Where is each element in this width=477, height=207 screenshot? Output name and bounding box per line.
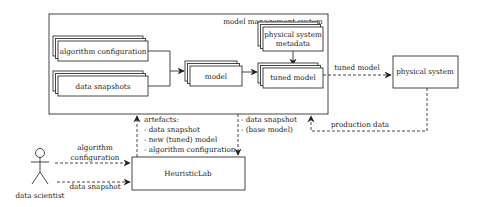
- to-heuristiclab-item: - data snapshot: [241, 115, 297, 124]
- artefacts-item: - algorithm configuration: [144, 145, 236, 154]
- physical-system-metadata-line2: metadata: [276, 39, 311, 48]
- scientist-data-label: data snapshot: [69, 182, 120, 191]
- data-snapshots-label: data snapshots: [76, 82, 131, 91]
- tuned-model-out-label: tuned model: [334, 63, 380, 72]
- heuristiclab-label: HeuristicLab: [164, 169, 212, 178]
- model-label: model: [205, 72, 228, 81]
- physical-system-metadata-stack: physical system metadata: [258, 22, 323, 51]
- artefacts-item: - new (tuned) model: [144, 135, 218, 144]
- algorithm-configuration-label: algorithm configuration: [60, 47, 147, 56]
- algorithm-configuration-stack: algorithm configuration: [53, 36, 148, 61]
- data-scientist-actor: data scientist: [15, 149, 64, 201]
- physical-system-metadata-line1: physical system: [264, 30, 322, 39]
- artefacts-title: artefacts:: [144, 115, 179, 124]
- artefacts-item: - data snapshot: [144, 125, 200, 134]
- data-snapshots-stack: data snapshots: [53, 71, 148, 96]
- production-data-label: production data: [331, 120, 390, 129]
- scientist-algo-label-2: configuration: [71, 153, 120, 162]
- model-stack: model: [185, 61, 242, 86]
- person-icon: [36, 149, 45, 158]
- to-heuristiclab-item: - (base model): [241, 125, 293, 134]
- data-scientist-label: data scientist: [15, 191, 64, 200]
- physical-system-label: physical system: [396, 67, 454, 76]
- scientist-algo-label-1: algorithm: [77, 143, 113, 152]
- tuned-model-label: tuned model: [270, 73, 316, 82]
- tuned-model-stack: tuned model: [258, 63, 323, 88]
- diagram-canvas: model management system algorithm config…: [0, 0, 477, 207]
